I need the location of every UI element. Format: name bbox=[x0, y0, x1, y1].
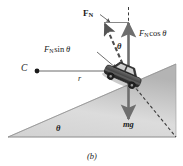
label-angle-incline: θ bbox=[56, 124, 60, 133]
figure-caption: (b) bbox=[87, 152, 97, 161]
label-normal-force: FN bbox=[83, 9, 93, 18]
normal-sin-leader bbox=[97, 52, 116, 68]
incline-wedge bbox=[8, 64, 176, 137]
label-weight: mg bbox=[123, 120, 134, 129]
figure-drawing bbox=[0, 0, 183, 166]
label-center-point: C bbox=[21, 64, 27, 74]
physics-figure: FN FN cos θ FN sin θ θ θ C r mg (b) bbox=[0, 0, 183, 166]
label-radius: r bbox=[78, 75, 81, 83]
label-normal-sin-component: FN sin θ bbox=[44, 45, 70, 54]
label-normal-cos-component: FN cos θ bbox=[139, 29, 167, 38]
center-dot bbox=[35, 69, 40, 74]
label-angle-top: θ bbox=[117, 42, 121, 51]
normal-force-leader bbox=[100, 15, 110, 23]
